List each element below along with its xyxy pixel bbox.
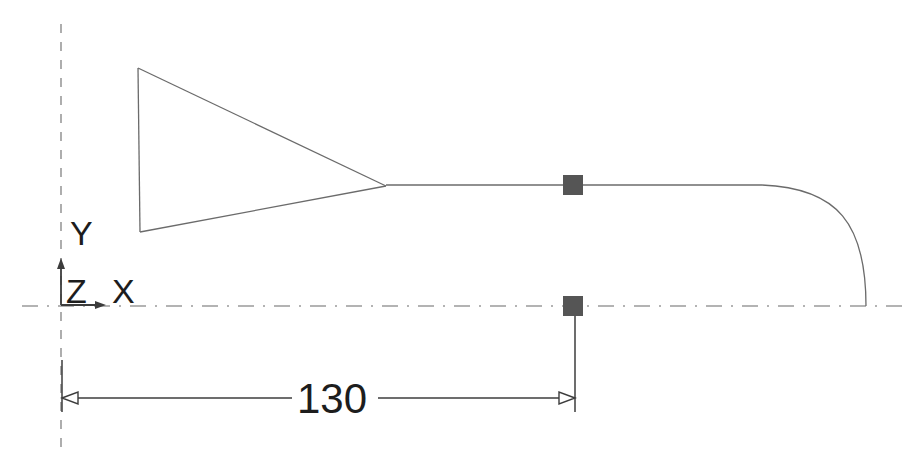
drawing-viewport[interactable]: Y Z X 130 [0, 0, 908, 455]
grip-marker-top[interactable] [563, 175, 583, 195]
profile-fillet-curve[interactable] [762, 185, 866, 306]
profile-triangle-top-edge[interactable] [138, 68, 386, 186]
ucs-z-label: Z [66, 272, 87, 310]
cad-drawing-canvas[interactable]: Y Z X 130 [0, 0, 908, 455]
ucs-y-label: Y [70, 214, 93, 252]
ucs-y-axis-arrowhead [57, 258, 65, 269]
grip-marker-bottom[interactable] [563, 296, 583, 316]
dimension-arrowhead-right [559, 392, 575, 404]
profile-triangle-left-edge[interactable] [138, 68, 140, 232]
profile-triangle-bottom-edge[interactable] [140, 186, 386, 232]
ucs-x-axis-arrowhead [95, 301, 106, 309]
dimension-arrowhead-left [62, 392, 78, 404]
dimension-value-text[interactable]: 130 [297, 375, 367, 422]
ucs-x-label: X [112, 272, 135, 310]
